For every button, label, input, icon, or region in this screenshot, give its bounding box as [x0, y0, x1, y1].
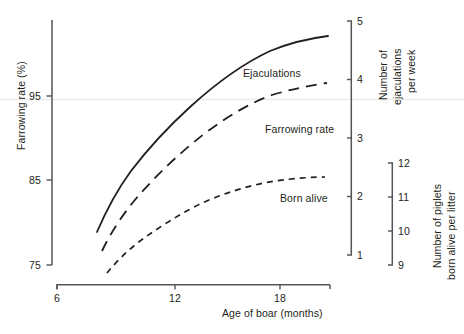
- chart-figure: Farrowing rate (%) 95 85 75 6 12 18 Age …: [0, 0, 464, 334]
- right-axis-born-alive-title-line2: born alive per litter: [446, 192, 457, 280]
- x-axis-tick-label-12: 12: [169, 293, 181, 304]
- right-axis-born-alive-tick-label-10: 10: [398, 226, 410, 237]
- left-axis-tick-label-75: 75: [29, 260, 41, 271]
- right-axis-ejaculations-title-line3: per week: [406, 50, 417, 93]
- right-axis-born-alive-tick-label-9: 9: [398, 260, 404, 271]
- right-axis-ejaculations-tick-label-1: 1: [357, 250, 363, 261]
- left-axis-tick-label-85: 85: [29, 175, 41, 186]
- series-label-ejaculations: Ejaculations: [243, 68, 301, 79]
- x-axis-tick-label-18: 18: [274, 293, 286, 304]
- right-axis-born-alive-spine: [388, 163, 393, 265]
- right-axis-ejaculations-tick-label-4: 4: [357, 74, 363, 85]
- series-label-born-alive: Born alive: [280, 193, 328, 204]
- right-axis-ejaculations-tick-label-2: 2: [357, 191, 363, 202]
- right-axis-ejaculations-title-line1: Number of: [378, 50, 389, 100]
- left-axis-title: Farrowing rate (%): [16, 61, 27, 150]
- x-axis-title: Age of boar (months): [222, 308, 323, 319]
- right-axis-ejaculations-tick-label-5: 5: [357, 16, 363, 27]
- series-label-farrowing-rate: Farrowing rate: [265, 124, 334, 135]
- right-axis-ejaculations-title-line2: ejaculations: [392, 48, 403, 105]
- right-axis-born-alive-tick-label-12: 12: [398, 158, 410, 169]
- right-axis-born-alive-title-line1: Number of piglets: [432, 184, 443, 268]
- x-axis-spine: [57, 284, 330, 289]
- x-axis-tick-label-6: 6: [54, 293, 60, 304]
- right-axis-born-alive-tick-label-11: 11: [398, 192, 409, 203]
- series-line-farrowing-rate: [102, 83, 327, 251]
- left-axis-tick-label-95: 95: [29, 91, 41, 102]
- right-axis-ejaculations-tick-label-3: 3: [357, 133, 363, 144]
